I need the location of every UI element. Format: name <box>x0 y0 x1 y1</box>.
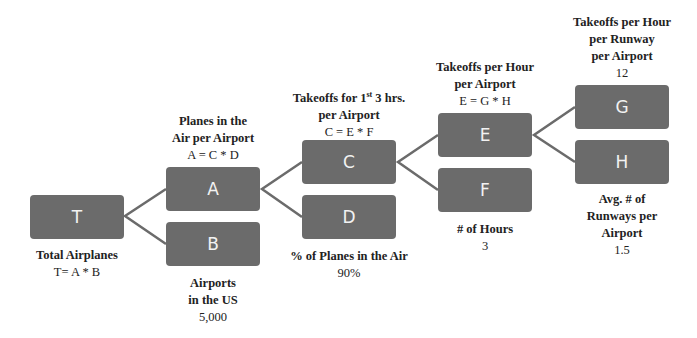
node-G-label: Takeoffs per Hour per Runway per Airport… <box>547 14 697 82</box>
node-B-box: B <box>166 222 260 266</box>
node-G-title: Takeoffs per Hour per Runway per Airport <box>547 14 697 65</box>
node-T-box: T <box>30 195 124 239</box>
node-B-letter: B <box>207 234 219 254</box>
node-C-box: C <box>302 140 396 184</box>
node-D-title: % of Planes in the Air <box>269 248 429 265</box>
node-A-letter: A <box>207 179 219 199</box>
node-E-label: Takeoffs per Hour per Airport E = G * H <box>410 59 560 110</box>
node-D-label: % of Planes in the Air 90% <box>269 248 429 282</box>
node-H-letter: H <box>616 152 629 172</box>
node-C-letter: C <box>343 152 355 172</box>
edge-A-C-D <box>262 162 302 217</box>
node-A-formula: A = C * D <box>143 147 283 164</box>
node-H-box: H <box>575 140 669 184</box>
node-D-box: D <box>302 195 396 239</box>
node-B-value: 5,000 <box>143 309 283 326</box>
node-T-label: Total Airplanes T= A * B <box>7 247 147 281</box>
node-H-title: Avg. # of Runways per Airport <box>552 191 692 242</box>
node-E-letter: E <box>480 125 491 145</box>
node-G-letter: G <box>615 97 628 117</box>
node-B-label: Airports in the US 5,000 <box>143 275 283 326</box>
node-F-title: # of Hours <box>415 221 555 238</box>
node-E-formula: E = G * H <box>410 93 560 110</box>
node-E-box: E <box>438 113 532 157</box>
node-C-formula: C = E * F <box>274 124 424 141</box>
node-T-formula: T= A * B <box>7 264 147 281</box>
node-T-letter: T <box>72 207 82 227</box>
edge-T-A-B <box>125 189 166 244</box>
node-A-box: A <box>166 167 260 211</box>
node-D-letter: D <box>342 207 355 227</box>
node-F-box: F <box>438 168 532 212</box>
node-F-label: # of Hours 3 <box>415 221 555 255</box>
node-E-title: Takeoffs per Hour per Airport <box>410 59 560 93</box>
node-H-label: Avg. # of Runways per Airport 1.5 <box>552 191 692 259</box>
node-A-title: Planes in the Air per Airport <box>143 113 283 147</box>
node-F-letter: F <box>480 180 490 200</box>
edge-E-G-H <box>534 107 575 162</box>
node-C-title-pre: Takeoffs for 1 <box>293 91 367 105</box>
node-T-title: Total Airplanes <box>7 247 147 264</box>
node-C-title: Takeoffs for 1st 3 hrs. per Airport <box>274 86 424 124</box>
node-C-label: Takeoffs for 1st 3 hrs. per Airport C = … <box>274 86 424 141</box>
node-A-label: Planes in the Air per Airport A = C * D <box>143 113 283 164</box>
node-F-value: 3 <box>415 238 555 255</box>
node-B-title: Airports in the US <box>143 275 283 309</box>
node-D-value: 90% <box>269 265 429 282</box>
node-G-box: G <box>575 85 669 129</box>
edge-C-E-F <box>398 135 438 190</box>
node-G-value: 12 <box>547 65 697 82</box>
node-H-value: 1.5 <box>552 242 692 259</box>
